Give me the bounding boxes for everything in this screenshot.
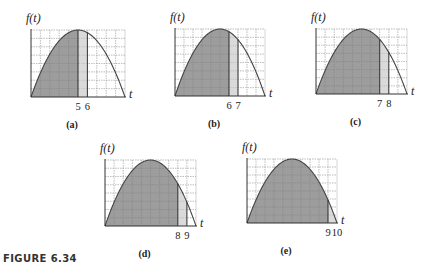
tick-label: 8 xyxy=(175,230,180,241)
tick-label: 10 xyxy=(332,227,343,238)
figure-6-34: f(t)t56(a)f(t)t67(b)f(t)t78(c)f(t)t89(d)… xyxy=(0,0,431,280)
shaded-area xyxy=(316,29,380,94)
y-axis-label: f(t) xyxy=(170,10,185,24)
panel-c: f(t)t78(c) xyxy=(311,10,415,128)
tick-label: 7 xyxy=(235,100,240,111)
panel-label: (a) xyxy=(66,119,78,131)
x-axis-label: t xyxy=(411,84,415,98)
y-axis-label: f(t) xyxy=(242,140,257,154)
x-axis-label: t xyxy=(341,213,345,227)
tick-label: 6 xyxy=(85,101,90,112)
y-axis-label: f(t) xyxy=(311,10,326,24)
panel-d: f(t)t89(d) xyxy=(100,141,204,260)
x-axis-label: t xyxy=(200,216,204,230)
panel-label: (d) xyxy=(138,248,150,260)
strip-area xyxy=(229,32,238,96)
strip-area xyxy=(178,184,187,226)
y-axis-label: f(t) xyxy=(100,141,115,155)
tick-label: 9 xyxy=(325,227,330,238)
panel-e: f(t)t910(e) xyxy=(242,140,345,257)
tick-label: 9 xyxy=(184,230,189,241)
panel-a: f(t)t56(a) xyxy=(26,11,133,131)
figure-caption: FIGURE 6.34 xyxy=(3,253,77,264)
x-axis-label: t xyxy=(129,87,133,101)
tick-label: 5 xyxy=(75,101,80,112)
y-axis-label: f(t) xyxy=(26,11,41,25)
panels-group: f(t)t56(a)f(t)t67(b)f(t)t78(c)f(t)t89(d)… xyxy=(26,10,415,260)
tick-label: 7 xyxy=(377,98,382,109)
panel-b: f(t)t67(b) xyxy=(170,10,273,130)
panel-label: (c) xyxy=(350,116,361,128)
tick-label: 6 xyxy=(226,100,231,111)
panel-label: (e) xyxy=(280,245,291,257)
x-axis-label: t xyxy=(269,86,273,100)
panel-label: (b) xyxy=(208,118,220,130)
tick-label: 8 xyxy=(386,98,391,109)
